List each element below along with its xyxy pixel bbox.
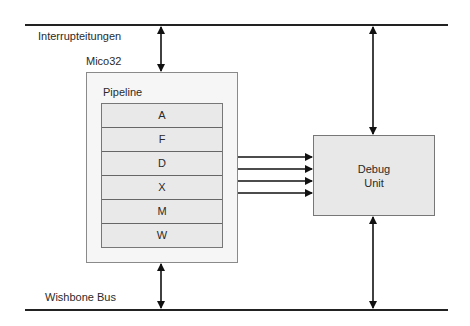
cpu-label: Mico32 [86,55,121,67]
stage-f: F [102,128,222,152]
wishbone-bus-label: Wishbone Bus [45,291,116,303]
debug-unit-label-line1: Debug [358,162,390,176]
debug-unit-label-line2: Unit [358,176,390,190]
stage-x: X [102,176,222,200]
stage-d: D [102,152,222,176]
pipeline-block: A F D X M W [101,103,223,248]
interrupt-lines-label: Interrupteitungen [38,30,121,42]
stage-m: M [102,200,222,224]
debug-unit-block: Debug Unit [313,135,435,216]
stage-a: A [102,104,222,128]
pipeline-label: Pipeline [103,86,142,98]
stage-w: W [102,224,222,247]
